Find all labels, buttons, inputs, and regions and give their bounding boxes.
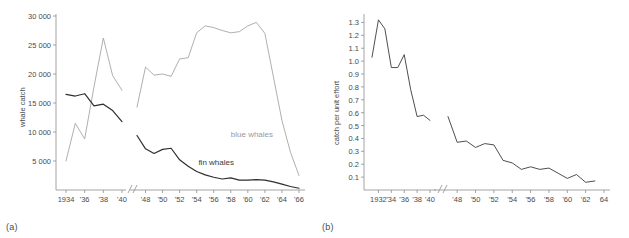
panel-b-y-tick-0.5: 0.5 [320, 121, 359, 130]
panel-b-y-tick-1: 1.0 [320, 57, 359, 66]
series-blue-whales-seg1 [137, 22, 299, 175]
panel-b-y-tick-1.1: 1.1 [320, 44, 359, 53]
panel-b-y-tick-0.9: 0.9 [320, 70, 359, 79]
panel-a-x-tick-1958: '58 [226, 195, 236, 204]
series-catch-per-unit-effort-seg0 [372, 20, 430, 121]
panel-a-y-tick-30000: 30 000 [0, 12, 51, 21]
panel-a-x-tick-1938: '38 [98, 195, 108, 204]
panel-b-x-tick-1936: '36 [399, 195, 409, 204]
series-label-blue-whales: blue whales [231, 130, 273, 139]
panel-b-x-tick-1948: '48 [452, 195, 462, 204]
panel-b-y-tick-0.4: 0.4 [320, 134, 359, 143]
panel-b-y-tick-0.6: 0.6 [320, 108, 359, 117]
panel-a-x-tick-1966: '66 [294, 195, 304, 204]
panel-a-x-tick-1950: '50 [158, 195, 168, 204]
panel-a-y-tick-15000: 15 000 [0, 99, 51, 108]
whale-catch-figure: whale catch (a) blue whales fin whales 5… [0, 0, 629, 238]
panel-b-label: (b) [322, 222, 334, 232]
panel-b-x-tick-1934: '34 [386, 195, 396, 204]
panel-a-y-tick-10000: 10 000 [0, 128, 51, 137]
panel-b-x-tick-1932: 1932 [370, 195, 387, 204]
panel-b-x-tick-1958: '58 [544, 195, 554, 204]
panel-b-x-tick-1938: '38 [412, 195, 422, 204]
panel-a-y-tick-25000: 25 000 [0, 41, 51, 50]
panel-a-x-tick-1948: '48 [141, 195, 151, 204]
panel-b-y-tick-0.2: 0.2 [320, 160, 359, 169]
series-catch-per-unit-effort-seg1 [448, 117, 595, 183]
panel-b-y-tick-0.8: 0.8 [320, 82, 359, 91]
panel-a-x-tick-1952: '52 [175, 195, 185, 204]
panel-b-x-tick-1964: 64 [600, 195, 608, 204]
panel-a-x-tick-1936: '36 [80, 195, 90, 204]
panel-b-x-tick-1950: '50 [471, 195, 481, 204]
panel-a-whale-catch: whale catch (a) blue whales fin whales 5… [0, 0, 320, 238]
panel-b-y-tick-1.3: 1.3 [320, 18, 359, 27]
panel-a-x-tick-1956: '56 [209, 195, 219, 204]
panel-a-x-tick-1934: 1934 [58, 195, 75, 204]
panel-b-y-tick-0.1: 0.1 [320, 173, 359, 182]
panel-a-x-tick-1960: '60 [243, 195, 253, 204]
panel-b-x-tick-1940: '40 [425, 195, 435, 204]
panel-a-x-tick-1962: '62 [260, 195, 270, 204]
series-blue-whales-seg0 [66, 38, 122, 161]
panel-b-y-tick-0.3: 0.3 [320, 147, 359, 156]
panel-b-x-tick-1956: '56 [526, 195, 536, 204]
panel-b-x-tick-1954: '54 [507, 195, 517, 204]
panel-a-x-tick-1940: '40 [117, 195, 127, 204]
panel-b-y-tick-1.2: 1.2 [320, 31, 359, 40]
panel-b-catch-per-unit-effort: catch per unit effort (b) 0.10.20.30.40.… [320, 0, 629, 238]
panel-b-x-tick-1952: '52 [489, 195, 499, 204]
panel-b-x-tick-1962: '62 [581, 195, 591, 204]
panel-a-label: (a) [6, 222, 18, 232]
panel-a-y-tick-5000: 5 000 [0, 157, 51, 166]
series-label-fin-whales: fin whales [198, 158, 234, 167]
series-fin-whales-seg0 [66, 94, 122, 122]
panel-a-y-tick-20000: 20 000 [0, 70, 51, 79]
panel-b-y-tick-0.7: 0.7 [320, 95, 359, 104]
panel-a-x-tick-1954: '54 [192, 195, 202, 204]
panel-b-x-tick-1960: '60 [562, 195, 572, 204]
panel-a-x-tick-1964: '64 [277, 195, 287, 204]
